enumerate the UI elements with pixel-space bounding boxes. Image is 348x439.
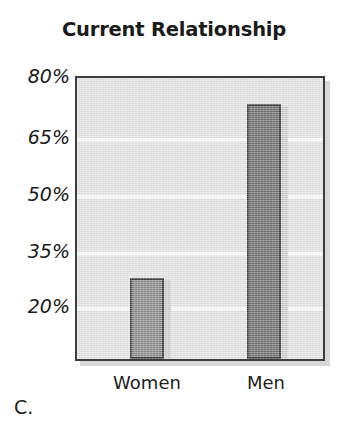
x-axis-label-women: Women [96, 372, 198, 393]
y-axis-tick-label-50: 50% [4, 185, 70, 204]
x-axis-label-men: Men [215, 372, 317, 393]
plot-area [75, 76, 325, 361]
bar-men [247, 104, 281, 359]
y-axis-tick-label-65: 65% [4, 128, 70, 147]
y-axis-tick-labels: 80% 65% 50% 35% 20% [0, 0, 70, 439]
figure-panel: Current Relationship 80% 65% 50% 35% 20%… [0, 0, 348, 439]
bar-women [130, 278, 164, 359]
y-axis-tick-label-20: 20% [4, 297, 70, 316]
y-axis-tick-label-80: 80% [4, 67, 70, 86]
panel-letter: C. [14, 396, 33, 418]
y-axis-tick-label-35: 35% [4, 242, 70, 261]
